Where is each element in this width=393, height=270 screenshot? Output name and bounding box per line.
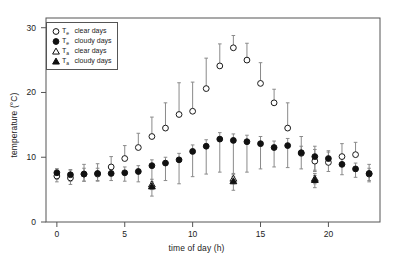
data-point-open-circle: [230, 45, 236, 51]
data-point-filled-circle: [108, 171, 114, 177]
data-point-open-circle: [122, 156, 128, 162]
data-point-filled-circle: [190, 149, 196, 155]
x-tick-label: 15: [251, 229, 271, 239]
data-point-open-circle: [258, 81, 264, 87]
y-tick-label: 20: [14, 87, 36, 97]
filled-triangle-icon: [51, 57, 62, 66]
data-point-filled-circle: [230, 138, 236, 144]
data-point-open-circle: [108, 164, 114, 170]
legend-condition-text: clear days: [75, 26, 107, 35]
data-point-open-circle: [53, 28, 59, 34]
y-tick-label: 0: [14, 217, 36, 227]
data-point-filled-circle: [149, 163, 155, 169]
data-point-filled-circle: [258, 141, 264, 147]
data-point-open-circle: [163, 125, 169, 131]
data-point-open-circle: [203, 86, 209, 92]
y-tick-label: 10: [14, 152, 36, 162]
data-point-open-circle: [271, 100, 277, 106]
data-point-filled-circle: [176, 157, 182, 163]
data-point-open-circle: [217, 63, 223, 69]
legend-condition-text: cloudy days: [75, 56, 112, 65]
data-point-open-triangle: [53, 48, 60, 54]
x-axis-title: time of day (h): [0, 243, 393, 253]
data-point-open-circle: [149, 134, 155, 140]
data-point-filled-circle: [217, 136, 223, 142]
open-triangle-icon: [51, 47, 62, 56]
x-tick-label: 20: [318, 229, 338, 239]
data-point-filled-circle: [54, 170, 60, 176]
data-point-filled-circle: [353, 166, 359, 172]
data-point-filled-circle: [298, 150, 304, 156]
data-point-filled-circle: [68, 172, 74, 178]
legend-entry-2: Taclear days: [51, 46, 112, 56]
data-point-filled-circle: [163, 160, 169, 166]
data-point-filled-circle: [95, 171, 101, 177]
data-point-filled-circle: [122, 170, 128, 176]
series-markers-filled-circle: [54, 136, 372, 177]
data-point-filled-circle: [366, 171, 372, 177]
data-point-open-circle: [135, 145, 141, 151]
data-point-filled-circle: [53, 38, 59, 44]
y-tick-label: 30: [14, 23, 36, 33]
data-point-filled-circle: [135, 169, 141, 175]
legend-condition-text: cloudy days: [75, 36, 112, 45]
legend-entry-label: Tacloudy days: [62, 56, 112, 67]
legend-entry-0: Teclear days: [51, 26, 112, 36]
data-point-filled-circle: [312, 154, 318, 160]
data-point-filled-circle: [203, 143, 209, 149]
data-point-filled-circle: [244, 139, 250, 145]
legend-symbol-subscript: e: [66, 30, 69, 36]
legend-entry-3: Tacloudy days: [51, 56, 112, 66]
legend-symbol-subscript: e: [66, 40, 69, 46]
data-point-filled-circle: [81, 171, 87, 177]
legend-symbol-subscript: a: [66, 50, 69, 56]
x-tick-label: 5: [115, 229, 135, 239]
chart-legend: Teclear daysTecloudy daysTaclear daysTac…: [46, 22, 118, 70]
legend-symbol-subscript: a: [66, 60, 69, 66]
data-point-open-circle: [339, 154, 345, 160]
data-point-filled-circle: [285, 143, 291, 149]
data-point-open-circle: [285, 125, 291, 131]
legend-entry-1: Tecloudy days: [51, 36, 112, 46]
legend-condition-text: clear days: [75, 46, 107, 55]
data-point-filled-circle: [271, 145, 277, 151]
data-point-open-circle: [176, 112, 182, 118]
data-point-filled-triangle: [53, 58, 60, 64]
y-axis-title: temperature (°C): [9, 65, 19, 185]
data-point-open-circle: [190, 108, 196, 114]
data-point-open-circle: [353, 152, 359, 158]
data-point-filled-circle: [326, 156, 332, 162]
legend-symbol: Ta: [62, 56, 69, 67]
x-tick-label: 10: [183, 229, 203, 239]
data-point-open-circle: [244, 57, 250, 63]
data-point-filled-circle: [339, 161, 345, 167]
filled-circle-icon: [51, 37, 62, 46]
open-circle-icon: [51, 27, 62, 36]
series-filled-circle: [55, 133, 371, 184]
x-tick-label: 0: [47, 229, 67, 239]
